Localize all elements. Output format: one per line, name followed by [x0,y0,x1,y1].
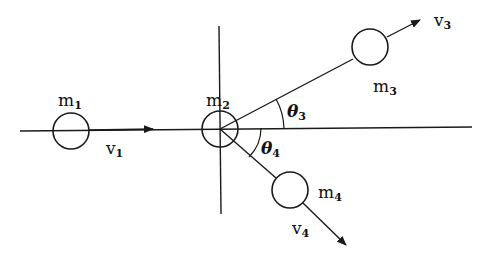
theta4-arc [249,128,261,157]
diagram-lines [0,0,482,266]
mass-m3 [352,29,388,65]
theta3-arc [276,99,284,128]
v1-arrow [89,129,153,130]
horizontal-axis [20,127,472,131]
label-m1: m1 [58,92,82,111]
label-m4: m4 [318,184,342,203]
v3-arrow [387,20,420,37]
label-theta4: θ4 [261,140,280,159]
label-v4: v4 [292,220,309,239]
v4-arrow [303,203,346,245]
label-theta3: θ3 [287,103,306,122]
label-v1: v1 [106,140,123,159]
collision-diagram: m1 m2 m3 m4 v1 v3 v4 θ3 θ4 [0,0,482,266]
label-m3: m3 [373,78,397,97]
label-v3: v3 [434,12,451,31]
mass-m4 [272,172,308,208]
vertical-axis [219,26,221,214]
label-m2: m2 [206,92,230,111]
